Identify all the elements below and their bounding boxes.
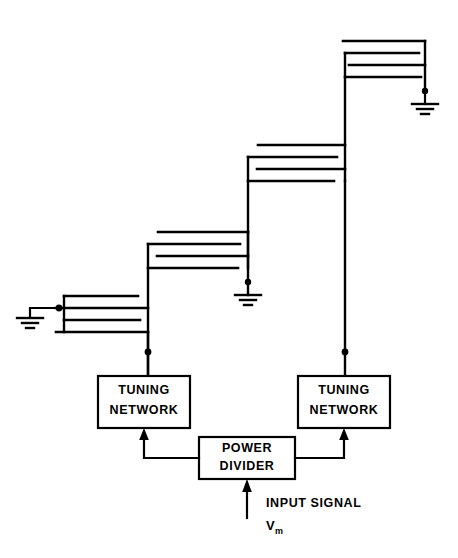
ground-icon <box>235 295 261 305</box>
ground-icon <box>17 318 43 328</box>
tuning-network-right-line1: TUNING <box>318 383 370 397</box>
diagram-canvas: TUNING NETWORK TUNING NETWORK POWER DIVI… <box>0 0 458 558</box>
arrow-up-icon <box>242 479 252 492</box>
input-signal-label: INPUT SIGNAL <box>266 496 361 510</box>
array-1-ground-lead <box>30 308 56 318</box>
antenna-feed-schematic: TUNING NETWORK TUNING NETWORK POWER DIVI… <box>0 0 458 558</box>
arrow-up-icon <box>139 428 149 440</box>
array-4-ground-node <box>422 88 428 94</box>
tuning-network-right-line2: NETWORK <box>310 403 379 417</box>
link-divider-to-left-tuning <box>139 428 199 458</box>
tuning-network-left-line2: NETWORK <box>110 403 179 417</box>
array-1-feed-node <box>145 349 152 356</box>
array-3-feed-node <box>342 349 349 356</box>
antenna-array-1-lowest <box>17 296 151 376</box>
input-signal-group: INPUT SIGNAL V m <box>242 479 361 536</box>
tuning-network-right[interactable]: TUNING NETWORK <box>298 376 390 428</box>
vm-symbol: V <box>266 518 275 533</box>
ground-icon <box>412 104 438 114</box>
link-divider-to-right-tuning <box>295 428 349 458</box>
arrow-up-icon <box>339 428 349 440</box>
power-divider-line2: DIVIDER <box>220 459 275 473</box>
antenna-array-3 <box>248 145 345 268</box>
power-divider[interactable]: POWER DIVIDER <box>199 437 295 479</box>
tuning-network-left-line1: TUNING <box>118 383 170 397</box>
power-divider-line1: POWER <box>222 441 272 455</box>
tuning-network-left[interactable]: TUNING NETWORK <box>98 376 190 428</box>
right-feed-wire <box>295 438 344 458</box>
array-1-ground-node <box>56 305 63 312</box>
vm-subscript: m <box>275 526 283 536</box>
array-2-ground-node <box>245 279 251 285</box>
left-feed-wire <box>144 438 199 458</box>
antenna-array-2 <box>148 232 261 376</box>
antenna-array-4-topmost <box>343 41 438 181</box>
